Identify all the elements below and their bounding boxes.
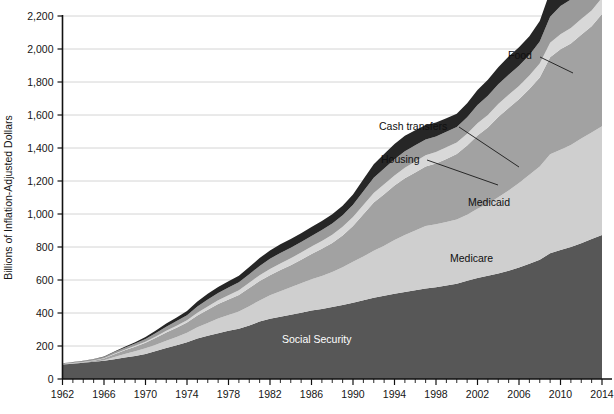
stacked-area-chart: 02004006008001,0001,2001,4001,6001,8002,… xyxy=(0,0,614,414)
y-axis-title: Billions of Inflation-Adjusted Dollars xyxy=(2,115,14,280)
y-tick-label-200: 200 xyxy=(36,340,54,352)
x-tick-label-1990: 1990 xyxy=(341,388,365,400)
y-tick-label-1800: 1,800 xyxy=(27,76,53,88)
x-tick-label-1970: 1970 xyxy=(134,388,158,400)
y-tick-label-2000: 2,000 xyxy=(27,43,53,55)
x-tick-label-1966: 1966 xyxy=(92,388,116,400)
y-tick-label-0: 0 xyxy=(48,373,54,385)
x-tick-label-2006: 2006 xyxy=(507,388,531,400)
x-tick-label-2014: 2014 xyxy=(590,388,614,400)
x-tick-label-1982: 1982 xyxy=(258,388,282,400)
y-tick-label-600: 600 xyxy=(36,274,54,286)
y-tick-label-400: 400 xyxy=(36,307,54,319)
chart-canvas: 02004006008001,0001,2001,4001,6001,8002,… xyxy=(0,0,614,414)
annotation-food: Food xyxy=(508,49,532,61)
y-tick-label-800: 800 xyxy=(36,241,54,253)
annotation-medicare: Medicare xyxy=(450,252,493,264)
y-tick-label-1200: 1,200 xyxy=(27,175,53,187)
x-tick-label-1974: 1974 xyxy=(175,388,199,400)
y-tick-label-1400: 1,400 xyxy=(27,142,53,154)
x-tick-label-1978: 1978 xyxy=(217,388,241,400)
x-tick-label-1986: 1986 xyxy=(300,388,324,400)
annotation-housing: Housing xyxy=(381,153,420,165)
x-tick-label-2002: 2002 xyxy=(466,388,490,400)
x-tick-label-1962: 1962 xyxy=(51,388,75,400)
y-tick-label-1000: 1,000 xyxy=(27,208,53,220)
annotation-social-security: Social Security xyxy=(282,333,352,345)
x-tick-label-1994: 1994 xyxy=(383,388,407,400)
x-tick-label-2010: 2010 xyxy=(549,388,573,400)
x-tick-label-1998: 1998 xyxy=(424,388,448,400)
y-tick-label-1600: 1,600 xyxy=(27,109,53,121)
cropped-caption-line xyxy=(0,408,614,414)
annotation-medicaid: Medicaid xyxy=(468,196,510,208)
annotation-cash-transfers: Cash transfers xyxy=(379,120,447,132)
y-tick-label-2200: 2,200 xyxy=(27,10,53,22)
